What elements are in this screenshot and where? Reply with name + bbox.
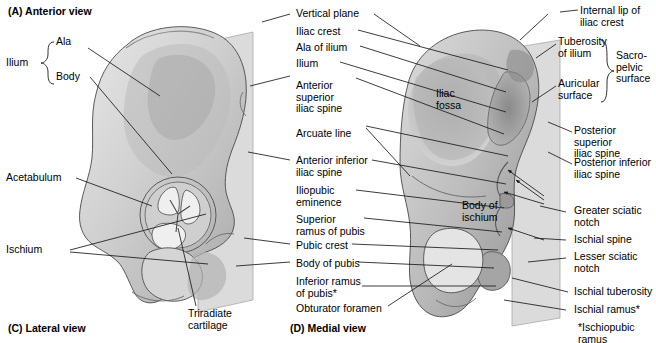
label-body: Body	[56, 71, 80, 83]
panel-caption-d: (D) Medial view	[290, 322, 366, 334]
hip-bone-anterior	[80, 27, 247, 303]
label-anterior-inferior-iliac-spine: Anterior inferior iliac spine	[296, 155, 368, 178]
sciatic-notch-arrows	[504, 170, 544, 240]
label-ilium: Ilium	[296, 58, 318, 70]
label-ischial-spine: Ischial spine	[574, 234, 632, 246]
label-lesser-sciatic-notch: Lesser sciatic notch	[574, 251, 638, 274]
label-sacropelvic-surface: Sacro- pelvic surface	[616, 50, 650, 85]
label-superior-ramus-of-pubis: Superior ramus of pubis	[296, 214, 365, 237]
label-iliopubic-eminence: Iliopubic eminence	[296, 185, 342, 208]
label-iliac-fossa: Iliac fossa	[436, 88, 461, 111]
label-arcuate-line: Arcuate line	[296, 128, 351, 140]
vertical-plane-left	[198, 32, 253, 312]
label-ala: Ala	[56, 36, 71, 48]
leader-lines-left	[70, 48, 208, 264]
label-pubic-crest: Pubic crest	[296, 240, 348, 252]
footnote: *Ischiopubic ramus	[578, 322, 656, 343]
label-tuberosity-of-ilium: Tuberosity of ilium	[558, 36, 607, 59]
label-inferior-ramus-of-pubis: Inferior ramus of pubis*	[296, 276, 361, 299]
leader-lines-center	[236, 14, 508, 306]
label-ilium-group: Ilium	[6, 57, 28, 69]
label-anterior-superior-iliac-spine: Anterior superior iliac spine	[296, 80, 342, 115]
anatomy-figure: (A) Anterior view (C) Lateral view (D) M…	[0, 0, 656, 343]
label-acetabulum: Acetabulum	[6, 172, 61, 184]
panel-caption-c: (C) Lateral view	[8, 322, 86, 334]
label-ala-of-ilium: Ala of ilium	[296, 42, 347, 54]
label-ischium: Ischium	[6, 244, 42, 256]
label-ischial-ramus: Ischial ramus*	[574, 304, 640, 316]
ilium-brace	[41, 42, 54, 84]
label-triradiate-cartilage: Triradiate cartilage	[188, 308, 232, 331]
label-body-of-pubis: Body of pubis	[296, 258, 360, 270]
label-ischial-tuberosity: Ischial tuberosity	[574, 286, 652, 298]
label-body-of-ischium: Body of ischium	[462, 200, 498, 223]
label-vertical-plane: Vertical plane	[296, 8, 359, 20]
label-iliac-crest: Iliac crest	[296, 26, 340, 38]
label-posterior-inferior-iliac-spine: Posterior inferior iliac spine	[574, 157, 651, 180]
panel-caption-a: (A) Anterior view	[8, 5, 92, 17]
label-greater-sciatic-notch: Greater sciatic notch	[574, 205, 642, 228]
vertical-plane-right	[512, 40, 560, 326]
label-auricular-surface: Auricular surface	[558, 78, 599, 101]
hip-bone-medial	[400, 30, 539, 317]
label-obturator-foramen: Obturator foramen	[296, 303, 382, 315]
label-posterior-superior-iliac-spine: Posterior superior iliac spine	[574, 125, 656, 160]
leader-line-triradiate	[178, 228, 196, 306]
label-internal-lip-of-iliac-crest: Internal lip of iliac crest	[580, 5, 640, 28]
